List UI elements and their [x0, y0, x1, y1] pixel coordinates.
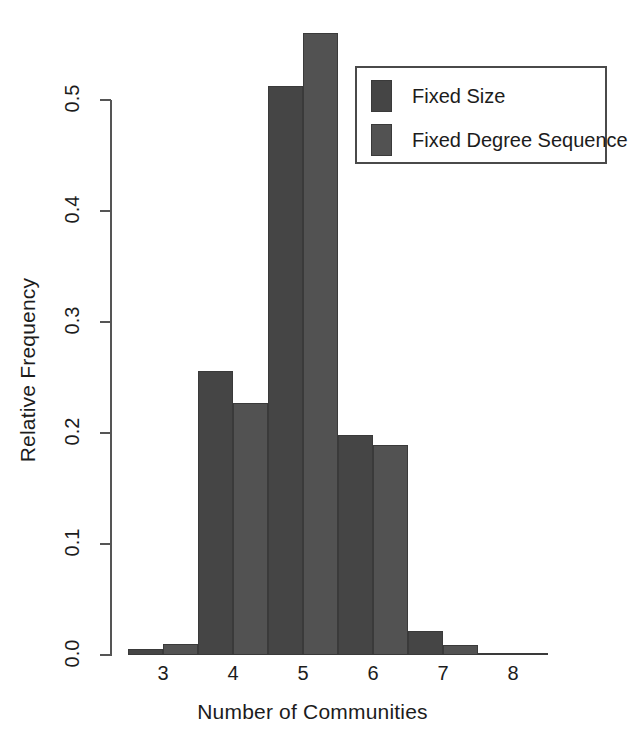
chart-legend: Fixed Size Fixed Degree Sequence	[355, 66, 607, 164]
bar	[443, 645, 478, 655]
bar	[408, 631, 443, 655]
bar	[163, 644, 198, 655]
legend-swatch-fixed-size	[371, 80, 392, 112]
bar	[513, 653, 548, 655]
legend-item-fixed-size: Fixed Size	[371, 76, 505, 116]
bar	[128, 649, 163, 655]
bar	[338, 435, 373, 655]
bar	[233, 403, 268, 655]
bar	[373, 445, 408, 655]
legend-label-fixed-degree-sequence: Fixed Degree Sequence	[412, 129, 628, 152]
bar	[303, 33, 338, 655]
bar	[198, 371, 233, 655]
legend-label-fixed-size: Fixed Size	[412, 85, 505, 108]
bar	[268, 86, 303, 655]
legend-swatch-fixed-degree-sequence	[371, 124, 392, 156]
legend-item-fixed-degree-sequence: Fixed Degree Sequence	[371, 120, 628, 160]
bar	[478, 653, 513, 655]
